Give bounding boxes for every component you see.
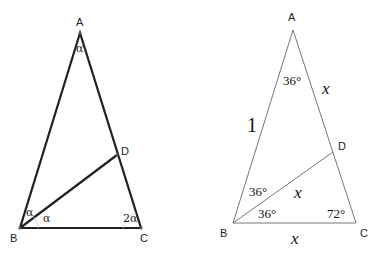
left-label-a: A xyxy=(76,16,84,28)
right-side-ad-label: x xyxy=(321,79,330,98)
right-angle-b-upper: 36° xyxy=(249,184,267,199)
left-label-c: C xyxy=(140,232,148,244)
right-triangle-figure: A B C D 36° 36° 36° 72° 1 x x x xyxy=(220,11,368,248)
right-label-c: C xyxy=(360,227,368,239)
left-label-d: D xyxy=(121,145,129,157)
right-label-a: A xyxy=(288,11,296,23)
left-angle-b-upper: α xyxy=(26,206,34,219)
left-triangle-abc xyxy=(20,33,141,228)
left-angle-b-lower: α xyxy=(43,212,51,225)
left-angle-c: 2α xyxy=(123,212,138,225)
left-angle-a: α xyxy=(76,42,84,55)
left-angle-arc-b xyxy=(34,217,38,228)
left-point-b-dot xyxy=(19,227,22,230)
right-segment-bd xyxy=(233,152,333,223)
right-angle-a: 36° xyxy=(283,73,301,88)
left-point-c-dot xyxy=(140,227,143,230)
left-label-b: B xyxy=(10,232,17,244)
left-triangle-figure: A B C D α α α 2α xyxy=(10,16,148,244)
left-point-d-dot xyxy=(116,154,119,157)
right-label-d: D xyxy=(338,140,346,152)
left-point-a-dot xyxy=(79,32,82,35)
right-side-bd-label: x xyxy=(293,183,302,202)
right-angle-c: 72° xyxy=(327,206,345,221)
right-side-ab-label: 1 xyxy=(247,114,257,136)
right-side-bc-label: x xyxy=(290,229,299,248)
right-angle-b-lower: 36° xyxy=(258,206,276,221)
geometry-diagram: A B C D α α α 2α A B C D 36° 36° 36° 72°… xyxy=(0,0,377,273)
right-label-b: B xyxy=(220,227,227,239)
